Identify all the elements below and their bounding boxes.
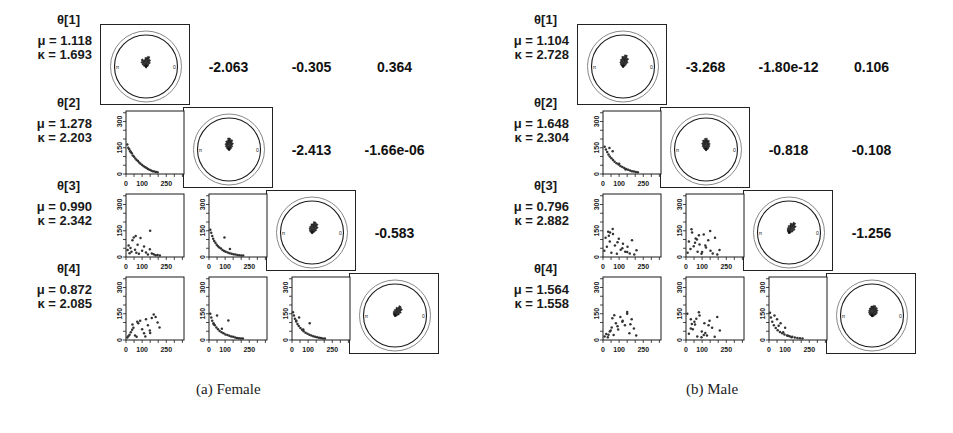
diagonal-cell-4: π0: [349, 273, 439, 354]
y-tick-label: 300: [593, 199, 600, 211]
kappa-value-4: κ = 2.085: [0, 297, 92, 312]
y-tick-label: 0: [199, 338, 206, 342]
variable-label-block-2: θ[2]μ = 1.278κ = 2.203: [0, 96, 92, 146]
scatter-plot: 01002503001500: [270, 274, 353, 357]
assoc-value-r3c4: -0.583: [353, 191, 436, 274]
x-tick-label: 100: [136, 263, 148, 270]
kappa-value-1: κ = 2.728: [477, 48, 569, 63]
y-tick-label: 300: [116, 282, 123, 294]
rose-petals: [141, 56, 151, 68]
scatter-cell-r4c2: 01002503001500: [664, 274, 747, 357]
circle-pi-label: π: [676, 147, 680, 153]
y-tick-label: 300: [199, 199, 206, 211]
mu-value-2: μ = 1.648: [477, 117, 569, 132]
diagonal-cell-2: π0: [183, 107, 273, 188]
y-tick-label: 150: [593, 225, 600, 237]
assoc-value-r1c3: -1.80e-12: [747, 25, 830, 108]
y-tick-label: 0: [593, 255, 600, 259]
variable-name-2: θ[2]: [0, 96, 92, 111]
y-tick-label: 300: [199, 282, 206, 294]
x-tick-label: 0: [290, 346, 294, 353]
rose-petals: [868, 305, 878, 317]
variable-name-4: θ[4]: [477, 262, 569, 277]
x-tick-label: 100: [696, 346, 708, 353]
circle-pi-label: π: [282, 230, 286, 236]
scatter-plot: 01002503001500: [104, 191, 187, 274]
assoc-value-r1c2: -2.063: [187, 25, 270, 108]
kappa-value-4: κ = 1.558: [477, 297, 569, 312]
x-tick-label: 0: [124, 263, 128, 270]
mu-value-2: μ = 1.278: [0, 117, 92, 132]
circle-zero-label: 0: [339, 230, 342, 236]
assoc-value-r2c4: -1.66e-06: [353, 108, 436, 191]
circular-rose-plot: π0: [578, 25, 668, 106]
diagonal-cell-1: π0: [577, 24, 667, 105]
scatter-plot: 01002503001500: [104, 108, 187, 191]
y-tick-label: 0: [759, 338, 766, 342]
kappa-value-3: κ = 2.342: [0, 214, 92, 229]
assoc-value-r2c4: -0.108: [830, 108, 913, 191]
variable-name-3: θ[3]: [477, 179, 569, 194]
x-tick-label: 250: [326, 346, 338, 353]
x-tick-label: 0: [207, 263, 211, 270]
variable-label-block-1: θ[1]μ = 1.104κ = 2.728: [477, 13, 569, 63]
diagonal-cell-3: π0: [266, 190, 356, 271]
rose-petals: [620, 55, 629, 68]
y-tick-label: 300: [759, 282, 766, 294]
circle-pi-label: π: [199, 147, 203, 153]
variable-name-1: θ[1]: [477, 13, 569, 28]
y-tick-label: 150: [593, 142, 600, 154]
y-tick-label: 150: [116, 225, 123, 237]
y-tick-label: 150: [199, 225, 206, 237]
scatter-cell-r2c1: 01002503001500: [104, 108, 187, 191]
caption-male: (b) Male: [686, 381, 738, 398]
circle-pi-label: π: [365, 313, 369, 319]
rose-petals: [393, 306, 403, 317]
scatter-plot: 01002503001500: [187, 274, 270, 357]
scatter-plot: 01002503001500: [104, 274, 187, 357]
x-tick-label: 100: [136, 180, 148, 187]
mu-value-4: μ = 1.564: [477, 283, 569, 298]
scatter-cell-r3c1: 01002503001500: [104, 191, 187, 274]
kappa-value-3: κ = 2.882: [477, 214, 569, 229]
rose-petals: [701, 138, 710, 151]
scatter-cell-r4c3: 01002503001500: [747, 274, 830, 357]
circle-zero-label: 0: [173, 64, 176, 70]
y-tick-label: 0: [676, 255, 683, 259]
circular-rose-plot: π0: [101, 25, 191, 106]
x-tick-label: 0: [684, 263, 688, 270]
circle-pi-label: π: [759, 230, 763, 236]
y-tick-label: 0: [116, 255, 123, 259]
x-tick-label: 0: [601, 180, 605, 187]
x-tick-label: 100: [219, 346, 231, 353]
scatter-cell-r2c1: 01002503001500: [581, 108, 664, 191]
x-tick-label: 250: [720, 346, 732, 353]
x-tick-label: 0: [601, 346, 605, 353]
variable-label-block-4: θ[4]μ = 0.872κ = 2.085: [0, 262, 92, 312]
scatter-cell-r4c2: 01002503001500: [187, 274, 270, 357]
y-tick-label: 0: [116, 338, 123, 342]
assoc-value-r2c3: -0.818: [747, 108, 830, 191]
variable-label-block-3: θ[3]μ = 0.990κ = 2.342: [0, 179, 92, 229]
panel-male: θ[1]μ = 1.104κ = 2.728θ[2]μ = 1.648κ = 2…: [477, 0, 953, 433]
circular-rose-plot: π0: [827, 274, 917, 355]
scatter-plot: 01002503001500: [664, 274, 747, 357]
mu-value-3: μ = 0.796: [477, 200, 569, 215]
diagonal-cell-1: π0: [100, 24, 190, 105]
y-tick-label: 0: [199, 255, 206, 259]
x-tick-label: 250: [243, 263, 255, 270]
x-tick-label: 0: [124, 180, 128, 187]
assoc-value-r1c4: 0.106: [830, 25, 913, 108]
mu-value-1: μ = 1.104: [477, 34, 569, 49]
variable-name-4: θ[4]: [0, 262, 92, 277]
circle-zero-label: 0: [422, 313, 425, 319]
scatter-plot: 01002503001500: [664, 191, 747, 274]
circle-zero-label: 0: [899, 313, 902, 319]
scatter-plot: 01002503001500: [747, 274, 830, 357]
y-tick-label: 0: [116, 172, 123, 176]
rose-petals: [225, 138, 234, 151]
mu-value-1: μ = 1.118: [0, 34, 92, 49]
x-tick-label: 100: [136, 346, 148, 353]
x-tick-label: 0: [124, 346, 128, 353]
panel-female: θ[1]μ = 1.118κ = 1.693θ[2]μ = 1.278κ = 2…: [0, 0, 476, 433]
